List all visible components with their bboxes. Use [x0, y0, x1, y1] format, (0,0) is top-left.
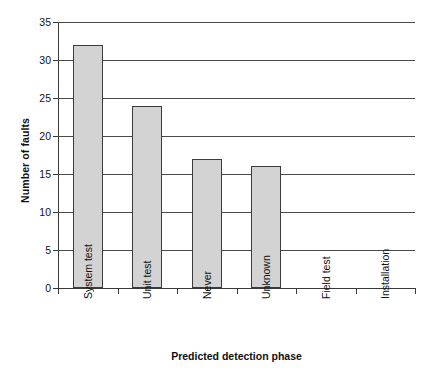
gridline — [58, 136, 415, 137]
x-axis-tick — [177, 288, 178, 294]
x-axis-tick-label: Unknown — [261, 255, 272, 299]
y-axis-tick — [53, 174, 58, 175]
plot-area: 05101520253035 System testUnit testNever… — [58, 22, 415, 288]
x-axis-tick-label: Unit test — [142, 260, 153, 299]
gridline — [58, 174, 415, 175]
gridline — [58, 250, 415, 251]
y-axis-tick-label: 15 — [39, 169, 51, 180]
y-axis-tick — [53, 212, 58, 213]
y-axis-tick-label: 5 — [45, 245, 51, 256]
y-axis-tick-label: 20 — [39, 131, 51, 142]
y-axis-tick — [53, 136, 58, 137]
y-axis-tick-label: 35 — [39, 17, 51, 28]
y-axis-tick-label: 0 — [45, 283, 51, 294]
y-axis-tick — [53, 98, 58, 99]
gridline — [58, 60, 415, 61]
y-axis-tick — [53, 250, 58, 251]
x-axis-tick-label: Installation — [380, 249, 391, 299]
x-axis-tick-label: System test — [82, 244, 93, 299]
x-axis-tick — [58, 288, 59, 294]
x-axis-title: Predicted detection phase — [58, 350, 415, 362]
x-axis-tick — [415, 288, 416, 294]
gridline — [58, 22, 415, 23]
y-axis-tick-label: 10 — [39, 207, 51, 218]
x-axis-tick — [237, 288, 238, 294]
bar — [192, 159, 222, 288]
bar-chart-figure: Number of faults 05101520253035 System t… — [0, 0, 438, 379]
gridline — [58, 212, 415, 213]
x-axis-tick — [118, 288, 119, 294]
y-axis-title: Number of faults — [16, 100, 34, 220]
y-axis-tick-label: 30 — [39, 55, 51, 66]
y-axis-tick — [53, 60, 58, 61]
x-axis-tick — [296, 288, 297, 294]
y-axis-tick-label: 25 — [39, 93, 51, 104]
x-axis-tick — [356, 288, 357, 294]
gridline — [58, 98, 415, 99]
y-axis-line — [58, 22, 59, 288]
y-axis-tick — [53, 22, 58, 23]
x-axis-tick-label: Never — [201, 271, 212, 299]
x-axis-tick-label: Field test — [320, 256, 331, 299]
